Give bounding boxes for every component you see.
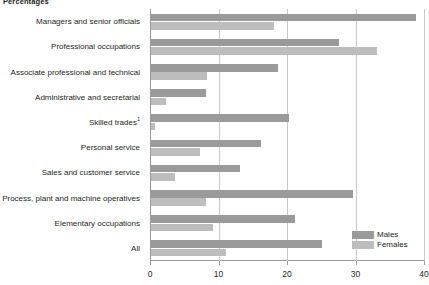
category-label: Professional occupations [51, 43, 140, 51]
bar-males [151, 39, 339, 47]
chart-row: Sales and customer service [150, 160, 424, 185]
bar-females [151, 22, 274, 30]
chart-unit-label: Percentages [3, 0, 49, 6]
x-tick-label-0: 0 [148, 269, 153, 279]
x-tick-mark-0 [150, 261, 151, 265]
bar-females [151, 148, 200, 156]
chart-row: Personal service [150, 135, 424, 160]
category-label: Skilled trades1 [89, 119, 140, 127]
bar-females [151, 72, 207, 80]
chart-row: Professional occupations [150, 34, 424, 59]
bar-females [151, 224, 213, 232]
bar-males [151, 140, 261, 148]
category-label: Process, plant and machine operatives [2, 195, 140, 203]
bar-females [151, 98, 166, 106]
legend-label-males: Males [377, 231, 398, 239]
x-tick-label-30: 30 [351, 269, 360, 279]
bar-males [151, 240, 322, 248]
bar-males [151, 190, 353, 198]
bar-females [151, 249, 226, 257]
bar-males [151, 215, 295, 223]
bar-males [151, 64, 278, 72]
legend-swatch-females-icon [352, 241, 374, 249]
category-label: Elementary occupations [55, 220, 140, 228]
legend-label-females: Females [377, 241, 408, 249]
legend-item-males: Males [352, 230, 398, 239]
bar-males [151, 114, 289, 122]
plot-area: 010203040 Managers and senior officialsP… [150, 9, 424, 261]
x-tick-mark-30 [356, 261, 357, 265]
category-label: Administrative and secretarial [35, 94, 140, 102]
bar-females [151, 123, 155, 131]
x-tick-mark-20 [287, 261, 288, 265]
x-tick-label-40: 40 [419, 269, 428, 279]
category-label: Associate professional and technical [11, 69, 140, 77]
category-label: All [131, 245, 140, 253]
chart-row: Associate professional and technical [150, 59, 424, 84]
gridline-40 [424, 9, 425, 261]
chart-row: Managers and senior officials [150, 9, 424, 34]
chart-row: Process, plant and machine operatives [150, 185, 424, 210]
bar-females [151, 47, 377, 55]
chart-row: Administrative and secretarial [150, 85, 424, 110]
x-tick-mark-40 [424, 261, 425, 265]
chart-legend: Males Females [352, 230, 422, 254]
bar-males [151, 14, 416, 22]
category-label: Personal service [81, 144, 140, 152]
x-tick-label-20: 20 [282, 269, 291, 279]
legend-item-females: Females [352, 240, 408, 249]
bar-females [151, 198, 206, 206]
bar-males [151, 165, 240, 173]
bar-males [151, 89, 206, 97]
legend-swatch-males-icon [352, 231, 374, 239]
x-tick-mark-10 [219, 261, 220, 265]
category-label: Managers and senior officials [36, 18, 140, 26]
bar-females [151, 173, 175, 181]
chart-row: Skilled trades1 [150, 110, 424, 135]
category-footnote-marker: 1 [137, 116, 140, 122]
x-tick-label-10: 10 [214, 269, 223, 279]
category-label: Sales and customer service [42, 169, 140, 177]
